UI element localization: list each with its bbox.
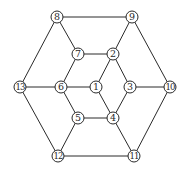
node-4: 4	[107, 112, 119, 124]
edge-12-13	[20, 87, 58, 156]
node-label: 1	[93, 81, 99, 92]
node-label: 13	[15, 82, 25, 92]
node-8: 8	[51, 11, 63, 23]
node-label: 4	[110, 112, 116, 123]
edge-11-4	[113, 118, 134, 156]
node-5: 5	[72, 112, 84, 124]
node-label: 9	[129, 11, 135, 22]
node-label: 8	[54, 11, 60, 22]
node-2: 2	[107, 48, 119, 60]
node-label: 3	[127, 81, 133, 92]
node-6: 6	[55, 81, 67, 93]
node-9: 9	[126, 11, 138, 23]
node-10: 10	[164, 81, 176, 93]
edge-10-11	[134, 87, 170, 156]
node-label: 11	[129, 151, 139, 161]
node-label: 10	[165, 82, 175, 92]
node-7: 7	[72, 48, 84, 60]
node-label: 5	[75, 112, 81, 123]
node-3: 3	[124, 81, 136, 93]
edge-13-8	[20, 17, 57, 87]
node-1: 1	[90, 81, 102, 93]
node-13: 13	[14, 81, 26, 93]
graph-diagram: 12345678910111213	[0, 0, 186, 174]
node-label: 6	[58, 81, 64, 92]
node-12: 12	[52, 150, 64, 162]
node-label: 12	[53, 151, 63, 161]
node-label: 7	[75, 48, 81, 59]
edge-9-10	[132, 17, 170, 87]
node-11: 11	[128, 150, 140, 162]
graph-canvas: 12345678910111213	[0, 0, 186, 174]
node-label: 2	[110, 48, 116, 59]
